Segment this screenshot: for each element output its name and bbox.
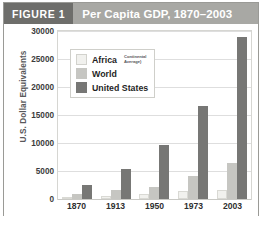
bar-world-1973 — [188, 176, 198, 199]
x-tick-label: 1950 — [138, 201, 171, 211]
x-tick-label: 2003 — [216, 201, 249, 211]
y-axis-ticks: 300002500020000150001000050000 — [22, 30, 54, 200]
y-tick-label: 20000 — [31, 83, 54, 92]
bar-world-2003 — [227, 163, 237, 199]
x-axis-ticks: 18701913195019732003 — [57, 201, 252, 215]
legend-swatch-world — [76, 68, 87, 79]
legend-item: United States — [76, 82, 148, 93]
gridline — [58, 199, 251, 200]
y-tick-label: 30000 — [31, 27, 54, 36]
legend-swatch-us — [76, 82, 87, 93]
bar-group-1973 — [177, 31, 210, 199]
figure-title: Per Capita GDP, 1870–2003 — [73, 3, 258, 24]
bar-africa-1870 — [62, 197, 72, 199]
figure-header: FIGURE 1 Per Capita GDP, 1870–2003 — [4, 3, 258, 24]
y-tick-label: 25000 — [31, 55, 54, 64]
bar-us-1913 — [121, 169, 131, 199]
y-tick-label: 0 — [49, 195, 54, 204]
figure-container: FIGURE 1 Per Capita GDP, 1870–2003 U.S. … — [3, 2, 259, 216]
bar-world-1913 — [111, 190, 121, 199]
bar-africa-1973 — [178, 191, 188, 199]
bar-group-2003 — [215, 31, 248, 199]
chart-legend: AfricaContinentalAverage)WorldUnited Sta… — [70, 49, 155, 98]
y-tick-label: 15000 — [31, 111, 54, 120]
bar-world-1870 — [72, 194, 82, 199]
bar-us-2003 — [237, 37, 247, 199]
plot-area: AfricaContinentalAverage)WorldUnited Sta… — [57, 30, 252, 200]
bar-us-1950 — [159, 145, 169, 199]
legend-note-line2: Average) — [124, 60, 147, 64]
y-tick-label: 10000 — [31, 139, 54, 148]
figure-number-badge: FIGURE 1 — [4, 3, 73, 24]
legend-item: AfricaContinentalAverage) — [76, 54, 148, 65]
bar-world-1950 — [149, 187, 159, 199]
bar-us-1870 — [82, 185, 92, 199]
bar-africa-1913 — [101, 196, 111, 199]
x-tick-label: 1913 — [99, 201, 132, 211]
legend-note: ContinentalAverage) — [124, 55, 147, 64]
chart-body: U.S. Dollar Equivalents 3000025000200001… — [4, 24, 258, 216]
legend-label: World — [92, 69, 117, 79]
y-tick-label: 5000 — [36, 167, 54, 176]
legend-label: United States — [92, 83, 148, 93]
x-tick-label: 1870 — [60, 201, 93, 211]
bar-us-1973 — [198, 106, 208, 199]
x-tick-label: 1973 — [177, 201, 210, 211]
bar-africa-2003 — [217, 190, 227, 199]
legend-label: Africa — [92, 55, 117, 65]
legend-item: World — [76, 68, 148, 79]
bar-africa-1950 — [139, 194, 149, 199]
legend-swatch-africa — [76, 54, 87, 65]
